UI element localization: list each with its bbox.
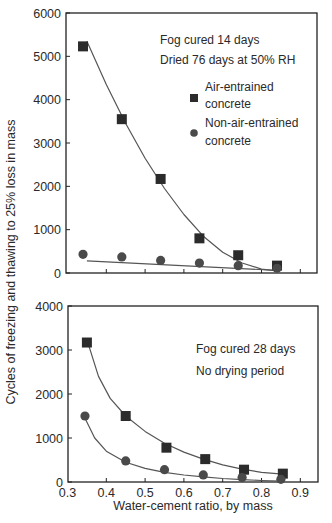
legend-circle-icon <box>190 129 198 137</box>
air-entrained-data-point <box>239 465 249 475</box>
non-air-entrained-data-point <box>199 470 208 479</box>
non-air-entrained-data-point <box>156 256 165 265</box>
chart-annotation: No drying period <box>196 364 284 378</box>
legend-label: Air-entrained <box>205 80 274 94</box>
x-tick-label: 0.8 <box>253 486 270 500</box>
air-entrained-data-point <box>194 233 204 243</box>
air-entrained-data-point <box>200 454 210 464</box>
air-entrained-fit-curve <box>87 41 277 271</box>
y-axis-label: Cycles of freezing and thawing to 25% lo… <box>4 120 18 405</box>
y-tick-label: 4000 <box>35 300 63 314</box>
y-tick-label: 2000 <box>35 388 63 402</box>
plot-frame <box>66 13 317 273</box>
non-air-entrained-data-point <box>160 465 169 474</box>
chart-annotation: Dried 76 days at 50% RH <box>160 53 295 67</box>
non-air-entrained-data-point <box>121 456 130 465</box>
top-chart-panel: 0100020003000400050006000Fog cured 14 da… <box>33 7 317 281</box>
y-tick-label: 6000 <box>33 7 61 21</box>
chart-annotation: Fog cured 14 days <box>160 33 259 47</box>
y-tick-label: 1000 <box>35 432 63 446</box>
non-air-entrained-data-point <box>276 475 285 484</box>
non-air-entrained-data-point <box>78 250 87 259</box>
x-tick-label: 0.3 <box>59 486 76 500</box>
y-tick-label: 3000 <box>33 137 61 151</box>
x-tick-label: 0.4 <box>98 486 115 500</box>
non-air-entrained-fit-curve <box>87 261 277 271</box>
non-air-entrained-data-point <box>272 264 281 273</box>
chart-annotation: Fog cured 28 days <box>196 342 295 356</box>
air-entrained-data-point <box>161 443 171 453</box>
y-tick-label: 1000 <box>33 223 61 237</box>
non-air-entrained-data-point <box>238 473 247 482</box>
legend: Air-entrainedconcreteNon-air-entrainedco… <box>190 80 298 148</box>
air-entrained-data-point <box>121 411 131 421</box>
x-axis-label: Water-cement ratio, by mass <box>113 499 272 513</box>
air-entrained-data-point <box>82 338 92 348</box>
non-air-entrained-data-point <box>117 252 126 261</box>
legend-label: Non-air-entrained <box>205 116 298 130</box>
air-entrained-data-point <box>233 250 243 260</box>
bottom-chart-panel: 010002000300040000.30.40.50.60.70.80.9Fo… <box>35 300 318 501</box>
air-entrained-data-point <box>156 174 166 184</box>
y-tick-label: 3000 <box>35 344 63 358</box>
x-tick-label: 0.7 <box>214 486 231 500</box>
non-air-entrained-data-point <box>195 258 204 267</box>
x-tick-label: 0.9 <box>292 486 309 500</box>
legend-label: concrete <box>205 97 251 111</box>
air-entrained-data-point <box>117 114 127 124</box>
y-tick-label: 5000 <box>33 50 61 64</box>
legend-square-icon <box>190 94 198 102</box>
x-tick-label: 0.6 <box>175 486 192 500</box>
y-tick-label: 2000 <box>33 180 61 194</box>
y-tick-label: 4000 <box>33 93 61 107</box>
non-air-entrained-data-point <box>80 411 89 420</box>
x-tick-label: 0.5 <box>136 486 153 500</box>
air-entrained-data-point <box>78 41 88 51</box>
y-tick-label: 0 <box>54 267 61 281</box>
non-air-entrained-fit-curve <box>85 418 281 481</box>
figure: Cycles of freezing and thawing to 25% lo… <box>0 0 332 523</box>
legend-label: concrete <box>205 134 251 148</box>
non-air-entrained-data-point <box>234 261 243 270</box>
